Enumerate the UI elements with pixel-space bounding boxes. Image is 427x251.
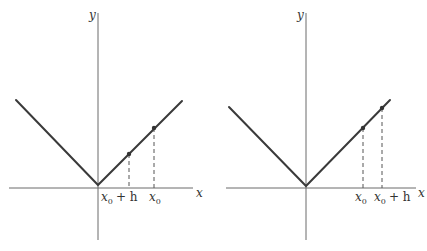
y-axis-label: y xyxy=(88,8,96,22)
abs-value-graph xyxy=(229,100,390,186)
x-axis-label: x xyxy=(418,186,425,200)
x-axis-label: x xyxy=(196,186,203,200)
point-x0 xyxy=(152,126,156,130)
svg-text:x0+ h: x0+ h xyxy=(101,190,138,206)
y-axis-label: y xyxy=(296,8,304,22)
right-panel: y x x0 x0+ h xyxy=(226,8,425,240)
label-x0-plus-h: x0+ h xyxy=(101,190,138,206)
label-x0: x0 xyxy=(355,190,367,206)
svg-text:x0+ h: x0+ h xyxy=(374,190,411,206)
svg-text:x0: x0 xyxy=(149,190,161,206)
point-x0 xyxy=(361,126,365,130)
left-panel: y x x0+ h x0 xyxy=(9,8,203,240)
label-x0: x0 xyxy=(149,190,161,206)
abs-value-graph xyxy=(16,100,182,185)
svg-text:x0: x0 xyxy=(355,190,367,206)
point-x0-plus-h xyxy=(380,106,384,110)
label-x0-plus-h: x0+ h xyxy=(374,190,411,206)
point-x0-plus-h xyxy=(127,152,131,156)
absolute-value-figure: y x x0+ h x0 y x x0 x0+ h xyxy=(0,0,427,251)
